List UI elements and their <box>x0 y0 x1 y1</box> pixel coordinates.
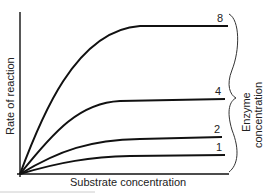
series-label-4: 4 <box>215 85 221 97</box>
legend-brace <box>229 14 238 172</box>
curve-4 <box>20 99 225 174</box>
series-label-1: 1 <box>216 141 222 153</box>
y-axis-label: Rate of reaction <box>4 57 16 135</box>
x-axis-label: Substrate concentration <box>70 176 186 188</box>
series-label-2: 2 <box>214 123 220 135</box>
chart-svg: 8 4 2 1 Enzyme concentration Substrate c… <box>0 0 264 193</box>
series-label-8: 8 <box>217 12 223 24</box>
legend-title-line2: concentration <box>252 82 264 148</box>
legend-title-line1: Enzyme <box>240 92 252 132</box>
